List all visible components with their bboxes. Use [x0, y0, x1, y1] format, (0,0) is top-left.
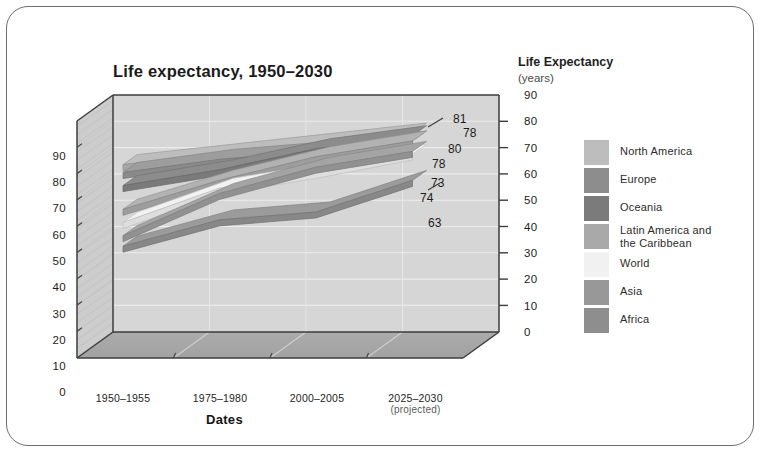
x-axis-tick-2-label: 1975–1980 [193, 392, 247, 404]
x-axis-tick-4: 2025–2030 (projected) [368, 392, 463, 415]
right-axis-units: (years) [518, 72, 554, 84]
legend-label-asia: Asia [620, 280, 642, 298]
left-axis-tick-10: 10 [32, 360, 66, 372]
value-label-europe: 78 [463, 126, 477, 140]
x-axis-tick-4-label: 2025–2030 [388, 392, 442, 404]
right-axis-tick-90: 90 [524, 89, 554, 101]
left-axis-tick-90: 90 [32, 150, 66, 162]
right-axis-title: Life Expectancy [518, 55, 613, 69]
value-label-latin-america: 78 [432, 157, 446, 171]
legend-item-latin-america[interactable]: Latin America and the Caribbean [584, 224, 754, 249]
page-title: Life expectancy, 1950–2030 [113, 62, 333, 81]
legend-swatch-europe [584, 168, 609, 193]
legend-item-asia[interactable]: Asia [584, 280, 754, 305]
x-axis-tick-4-note: (projected) [368, 404, 463, 415]
screenshot-root: Life expectancy, 1950–2030 Life Expectan… [0, 0, 761, 464]
legend-item-africa[interactable]: Africa [584, 308, 754, 333]
legend-item-oceania[interactable]: Oceania [584, 196, 754, 221]
right-axis-tick-60: 60 [524, 168, 554, 180]
x-axis-title: Dates [206, 412, 243, 427]
legend-swatch-asia [584, 280, 609, 305]
left-axis-tick-40: 40 [32, 281, 66, 293]
left-axis-tick-80: 80 [32, 176, 66, 188]
left-axis-tick-50: 50 [32, 255, 66, 267]
legend-swatch-world [584, 252, 609, 277]
right-axis-tick-10: 10 [524, 300, 554, 312]
value-label-oceania: 80 [448, 142, 462, 156]
legend-label-latin-america: Latin America and the Caribbean [620, 224, 711, 249]
legend-label-oceania: Oceania [620, 196, 662, 214]
legend-label-europe: Europe [620, 168, 657, 186]
legend-swatch-oceania [584, 196, 609, 221]
legend-swatch-north-america [584, 140, 609, 165]
chart-legend: North America Europe Oceania Latin Ameri… [584, 140, 754, 336]
value-label-north-america: 81 [453, 112, 467, 126]
left-axis-tick-60: 60 [32, 229, 66, 241]
right-axis-tick-20: 20 [524, 273, 554, 285]
right-axis-tick-50: 50 [524, 194, 554, 206]
left-axis-tick-20: 20 [32, 334, 66, 346]
legend-item-north-america[interactable]: North America [584, 140, 754, 165]
legend-label-world: World [620, 252, 650, 270]
x-axis-tick-3-label: 2000–2005 [290, 392, 344, 404]
left-axis-tick-30: 30 [32, 308, 66, 320]
legend-item-europe[interactable]: Europe [584, 168, 754, 193]
x-axis-tick-2: 1975–1980 [175, 392, 265, 404]
legend-item-world[interactable]: World [584, 252, 754, 277]
value-label-asia: 74 [420, 191, 434, 205]
x-axis-tick-1: 1950–1955 [78, 392, 168, 404]
legend-label-north-america: North America [620, 140, 692, 158]
left-axis-tick-70: 70 [32, 202, 66, 214]
legend-swatch-africa [584, 308, 609, 333]
right-axis-tick-30: 30 [524, 247, 554, 259]
legend-swatch-latin-america [584, 224, 609, 249]
x-axis-tick-1-label: 1950–1955 [96, 392, 150, 404]
x-axis-tick-3: 2000–2005 [272, 392, 362, 404]
value-label-africa: 63 [428, 216, 442, 230]
legend-label-africa: Africa [620, 308, 649, 326]
right-axis-tick-70: 70 [524, 142, 554, 154]
right-axis-tick-40: 40 [524, 221, 554, 233]
right-axis-tick-80: 80 [524, 115, 554, 127]
left-axis-tick-0: 0 [32, 386, 66, 398]
right-axis-tick-0: 0 [524, 326, 554, 338]
value-label-world: 73 [431, 176, 445, 190]
